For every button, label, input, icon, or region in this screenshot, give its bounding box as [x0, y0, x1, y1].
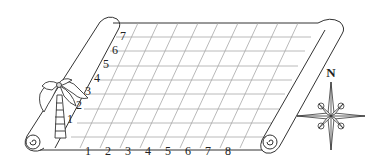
x-label-1: 1 — [85, 145, 91, 157]
y-label-7: 7 — [120, 30, 126, 42]
x-label-2: 2 — [105, 145, 111, 157]
map-paper — [40, 23, 325, 150]
map-diagram: 1 2 3 4 5 6 7 8 1 2 3 4 5 6 7 N — [0, 0, 379, 161]
y-label-3: 3 — [85, 85, 91, 97]
map-canvas — [0, 0, 379, 161]
compass-north-label: N — [326, 65, 335, 81]
y-label-5: 5 — [103, 58, 109, 70]
x-label-6: 6 — [185, 145, 191, 157]
y-label-6: 6 — [112, 44, 118, 56]
compass-rose-icon — [297, 82, 365, 150]
x-label-7: 7 — [205, 145, 211, 157]
x-label-4: 4 — [145, 145, 151, 157]
y-label-1: 1 — [67, 113, 73, 125]
x-label-8: 8 — [225, 145, 231, 157]
x-label-3: 3 — [125, 145, 131, 157]
x-label-5: 5 — [165, 145, 171, 157]
y-label-4: 4 — [94, 72, 100, 84]
y-label-2: 2 — [76, 99, 82, 111]
